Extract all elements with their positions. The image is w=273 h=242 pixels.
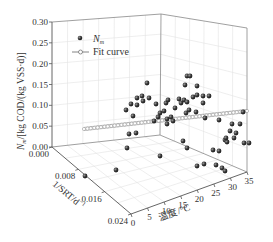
data-point [152,119,157,124]
z-tick-label: 0.25 [32,38,48,48]
scatter-3d-chart: 0.000.050.100.150.200.250.30 0.0000.0080… [0,0,273,242]
z-tick-label: 0.10 [32,100,48,110]
y-tick-label: 35 [245,176,255,186]
y-axis-ticks: 05101520253035 [131,172,254,228]
data-point [194,110,199,115]
data-point [241,110,246,115]
y-tick-label: 30 [228,182,238,192]
data-point [214,163,219,168]
legend-label-nm: Nm [92,33,105,45]
data-point [124,108,129,113]
legend-label-fit: Fit curve [93,46,129,57]
data-point [162,109,167,114]
data-point [202,162,207,167]
data-point [234,131,239,136]
data-point [203,116,208,121]
data-point [217,149,222,154]
data-point [145,81,150,86]
data-point [207,94,212,99]
data-point [173,106,178,111]
data-point [195,164,200,169]
y-tick-label: 5 [147,212,152,222]
data-point [171,119,176,124]
y-tick-label: 0 [131,218,136,228]
z-axis-ticks: 0.000.050.100.150.200.250.30 [32,17,52,152]
data-point [131,114,136,119]
data-point [166,98,171,103]
data-point [140,94,145,99]
legend-marker-sphere-icon [78,36,83,41]
data-point [201,101,206,106]
data-point [135,103,140,108]
data-point [217,118,222,123]
data-point [141,99,146,104]
data-point [223,169,228,174]
data-point [134,131,139,136]
data-point [230,122,235,127]
y-tick-label: 20 [195,194,205,204]
y-tick-label: 25 [211,188,221,198]
z-tick-label: 0.05 [32,121,48,131]
data-point [83,174,88,179]
data-point [135,96,140,101]
x-tick-label: 0.000 [29,149,50,159]
data-point [201,94,206,99]
data-point [114,168,119,173]
data-point [158,154,163,159]
data-point [184,111,189,116]
z-tick-label: 0.15 [32,80,48,90]
z-axis-title: Nm/[kg COD/(kg VSS·d)] [16,52,27,151]
data-point [185,100,190,105]
data-point [188,74,193,79]
data-point [125,146,130,151]
data-point [154,102,159,107]
data-point [165,122,170,127]
data-point [183,83,188,88]
data-point [195,84,200,89]
data-point [224,136,229,141]
z-tick-label: 0.20 [32,59,48,69]
x-tick-label: 0.024 [108,216,129,226]
data-point [242,141,247,146]
data-point [228,129,233,134]
data-point [147,96,152,101]
z-tick-label: 0.30 [32,17,48,27]
legend-open-circle-icon [79,50,83,54]
y-axis-title: 温度/°C [157,201,192,223]
data-point [185,146,190,151]
data-point [247,141,252,146]
data-point [181,139,186,144]
data-point [225,140,230,145]
x-axis-ticks: 0.0000.0080.0160.024 [29,147,131,226]
data-point [232,136,237,141]
data-point [238,122,243,127]
data-point [211,148,216,153]
data-point [129,102,134,107]
data-point [195,93,200,98]
data-point [127,132,132,137]
legend: Nm Fit curve [72,33,129,57]
grid-lines [52,15,247,208]
